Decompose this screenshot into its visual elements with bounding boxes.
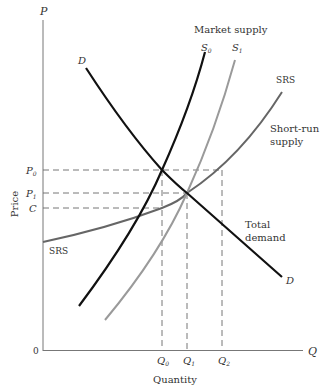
x-axis-symbol: Q [308,345,317,358]
demand-label-top: D [77,55,86,66]
srs-label-top: SRS [276,75,295,85]
s1-curve [105,60,235,320]
q2-label: Q2 [218,355,230,367]
short-run-supply-caption-1: Short-run [270,123,320,134]
origin-label: 0 [33,346,39,356]
demand-label-bottom: D [285,275,294,286]
srs-label-left: SRS [49,246,68,256]
p0-label: P0 [25,165,37,177]
s0-curve [79,52,205,306]
total-demand-caption-2: demand [245,232,286,243]
market-supply-caption: Market supply [194,24,268,35]
total-demand-caption-1: Total [245,219,270,230]
y-axis-symbol: P [39,5,48,18]
s1-label: S1 [232,42,243,54]
s0-label: S0 [201,42,212,54]
supply-demand-diagram: P Q 0 Quantity Price P0 P1 C Q0 Q1 Q2 Ma… [0,0,324,390]
q0-label: Q0 [157,355,169,367]
c-label: C [29,203,37,214]
x-axis-title: Quantity [153,374,197,385]
p1-label: P1 [25,188,37,200]
q1-label: Q1 [183,355,195,367]
y-axis-title: Price [9,191,20,217]
short-run-supply-caption-2: supply [270,136,304,147]
demand-curve [86,68,282,277]
diagram-canvas: P Q 0 Quantity Price P0 P1 C Q0 Q1 Q2 Ma… [0,0,324,390]
guide-lines [43,170,222,350]
